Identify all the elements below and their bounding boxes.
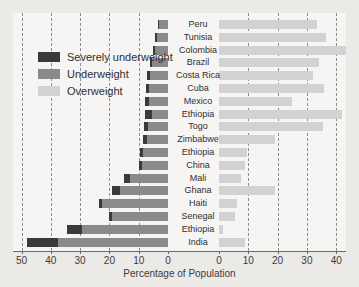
chart-figure: PeruTunisiaColombiaBrazilCosta RicaCubaM…	[0, 0, 359, 287]
x-tick-left-50: 50	[16, 255, 27, 266]
chart-row: Togo	[13, 120, 346, 133]
chart-row: Senegal	[13, 210, 346, 223]
category-label: Haiti	[168, 197, 228, 210]
bar-overweight	[219, 84, 324, 93]
chart-row: Zimbabwe	[13, 133, 346, 146]
bar-underweight	[112, 186, 168, 195]
legend-item: Underweight	[38, 67, 173, 81]
x-tick-right-10: 10	[243, 255, 254, 266]
plot-area: PeruTunisiaColombiaBrazilCosta RicaCubaM…	[13, 13, 346, 251]
bar-severely-underweight	[158, 20, 159, 29]
chart-row: Peru	[13, 18, 346, 31]
bar-overweight	[219, 46, 346, 55]
bar-overweight	[219, 71, 313, 80]
legend-swatch-icon	[38, 69, 60, 79]
category-label: Cuba	[168, 82, 228, 95]
x-tick-left-10: 10	[133, 255, 144, 266]
x-tick-left-30: 30	[75, 255, 86, 266]
legend-item: Overweight	[38, 84, 173, 98]
chart-legend: Severely underweightUnderweightOverweigh…	[38, 50, 173, 101]
x-tick-right-20: 20	[272, 255, 283, 266]
bar-severely-underweight	[112, 186, 119, 195]
x-tick-left-10-mark	[139, 251, 140, 254]
chart-row: India	[13, 236, 346, 249]
x-tick-right-30-mark	[307, 251, 308, 254]
legend-label: Underweight	[67, 68, 129, 80]
bar-overweight	[219, 122, 323, 131]
bar-severely-underweight	[109, 212, 111, 221]
bar-overweight	[219, 58, 319, 67]
category-label: China	[168, 159, 228, 172]
legend-label: Severely underweight	[67, 51, 173, 63]
bar-underweight	[109, 212, 168, 221]
x-tick-left-0: 0	[165, 255, 171, 266]
bar-severely-underweight	[99, 199, 102, 208]
legend-label: Overweight	[67, 85, 123, 97]
chart-row: China	[13, 159, 346, 172]
x-tick-right-20-mark	[278, 251, 279, 254]
category-label: Tunisia	[168, 31, 228, 44]
chart-row: Haiti	[13, 197, 346, 210]
bar-underweight	[139, 161, 168, 170]
category-label: Peru	[168, 18, 228, 31]
category-label: Togo	[168, 120, 228, 133]
bar-underweight	[124, 174, 168, 183]
x-tick-right-0: 0	[216, 255, 222, 266]
bar-severely-underweight	[143, 135, 147, 144]
bar-severely-underweight	[139, 161, 142, 170]
chart-row: Ghana	[13, 184, 346, 197]
bar-severely-underweight	[124, 174, 130, 183]
x-tick-right-0-mark	[219, 251, 220, 254]
bar-underweight	[158, 20, 168, 29]
category-label: Ethiopia	[168, 108, 228, 121]
category-label: India	[168, 236, 228, 249]
x-axis-label: Percentage of Population	[0, 268, 359, 279]
category-label: Mali	[168, 172, 228, 185]
bar-underweight	[99, 199, 168, 208]
bar-overweight	[219, 20, 317, 29]
chart-row: Tunisia	[13, 31, 346, 44]
legend-swatch-icon	[38, 52, 60, 62]
category-label: Ethiopia	[168, 146, 228, 159]
category-label: Senegal	[168, 210, 228, 223]
x-tick-left-30-mark	[80, 251, 81, 254]
x-tick-left-50-mark	[22, 251, 23, 254]
legend-swatch-icon	[38, 86, 60, 96]
chart-row: Ethiopia	[13, 146, 346, 159]
bar-underweight	[143, 135, 168, 144]
bar-overweight	[219, 110, 342, 119]
x-tick-left-20: 20	[104, 255, 115, 266]
category-label: Zimbabwe	[168, 133, 228, 146]
bar-severely-underweight	[145, 110, 152, 119]
bar-severely-underweight	[27, 238, 58, 247]
x-tick-right-30: 30	[301, 255, 312, 266]
bar-overweight	[219, 97, 292, 106]
chart-row: Ethiopia	[13, 223, 346, 236]
x-tick-right-40: 40	[331, 255, 342, 266]
chart-row: Mali	[13, 172, 346, 185]
category-label: Costa Rica	[168, 69, 228, 82]
x-axis-line	[13, 251, 346, 252]
bar-underweight	[67, 225, 168, 234]
bar-severely-underweight	[140, 148, 143, 157]
chart-row: Ethiopia	[13, 108, 346, 121]
bar-overweight	[219, 33, 326, 42]
x-tick-left-40: 40	[45, 255, 56, 266]
bar-underweight	[140, 148, 168, 157]
x-tick-right-40-mark	[336, 251, 337, 254]
category-label: Ethiopia	[168, 223, 228, 236]
bar-severely-underweight	[144, 122, 148, 131]
category-label: Ghana	[168, 184, 228, 197]
x-tick-left-0-mark	[168, 251, 169, 254]
x-tick-left-40-mark	[51, 251, 52, 254]
legend-item: Severely underweight	[38, 50, 173, 64]
category-label: Colombia	[168, 44, 228, 57]
x-tick-right-10-mark	[248, 251, 249, 254]
bar-severely-underweight	[155, 33, 157, 42]
category-label: Mexico	[168, 95, 228, 108]
bar-severely-underweight	[67, 225, 82, 234]
category-label: Brazil	[168, 56, 228, 69]
x-tick-left-20-mark	[109, 251, 110, 254]
